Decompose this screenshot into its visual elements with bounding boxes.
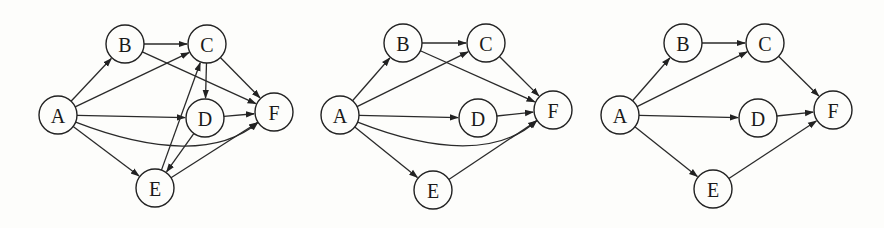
graph-3-nodes: ABCDEF: [601, 24, 852, 208]
node-E: E: [694, 170, 732, 208]
edge-A-to-D: [359, 115, 458, 117]
edge-A-to-B: [633, 58, 670, 101]
edge-A-to-E: [355, 127, 418, 178]
edge-C-to-F: [779, 56, 819, 96]
node-C: C: [188, 25, 226, 63]
node-label: C: [758, 33, 771, 55]
node-label: D: [198, 108, 212, 130]
node-label: D: [471, 108, 485, 130]
edge-D-to-F: [777, 112, 813, 116]
graph-3-edges: [633, 43, 819, 179]
graph-1-edges: [71, 44, 260, 178]
node-label: A: [333, 105, 348, 127]
node-label: B: [676, 33, 689, 55]
edge-A-to-D: [77, 115, 185, 117]
node-C: C: [746, 24, 784, 62]
node-label: B: [396, 33, 409, 55]
edge-A-to-B: [71, 59, 111, 102]
node-B: B: [106, 25, 144, 63]
node-E: E: [136, 169, 174, 207]
node-label: E: [707, 179, 719, 201]
node-B: B: [384, 24, 422, 62]
node-label: F: [827, 100, 838, 122]
edge-A-to-E: [73, 126, 139, 176]
edge-A-to-D: [639, 115, 738, 117]
graph-2-nodes: ABCDEF: [321, 24, 572, 209]
node-label: A: [613, 105, 628, 127]
edge-A-to-F: [358, 120, 537, 145]
edge-D-to-F: [497, 112, 533, 116]
node-E: E: [414, 171, 452, 209]
graph-2-edges: [353, 43, 539, 179]
node-label: E: [149, 178, 161, 200]
node-label: B: [118, 34, 131, 56]
edge-D-to-F: [224, 114, 254, 117]
node-F: F: [814, 91, 852, 129]
node-D: D: [459, 99, 497, 137]
edge-C-to-F: [499, 56, 538, 95]
node-label: A: [51, 105, 66, 127]
dag-diagram: ABCDEFABCDEFABCDEF: [0, 0, 884, 228]
node-label: C: [200, 34, 213, 56]
node-label: F: [547, 100, 558, 122]
node-B: B: [664, 24, 702, 62]
node-A: A: [321, 96, 359, 134]
node-A: A: [39, 96, 77, 134]
node-F: F: [534, 91, 572, 129]
node-D: D: [739, 99, 777, 137]
node-label: C: [479, 33, 492, 55]
edge-C-to-D: [206, 63, 207, 98]
graph-1-nodes: ABCDEF: [39, 25, 293, 207]
edge-A-to-B: [353, 58, 390, 101]
node-A: A: [601, 96, 639, 134]
node-label: D: [751, 108, 765, 130]
edge-C-to-F: [220, 58, 260, 98]
node-C: C: [467, 24, 505, 62]
node-label: F: [268, 102, 279, 124]
edges-layer: [71, 43, 819, 179]
node-D: D: [186, 99, 224, 137]
node-F: F: [255, 93, 293, 131]
edge-A-to-E: [635, 127, 697, 177]
edge-A-to-F: [76, 122, 258, 146]
node-label: E: [427, 180, 439, 202]
